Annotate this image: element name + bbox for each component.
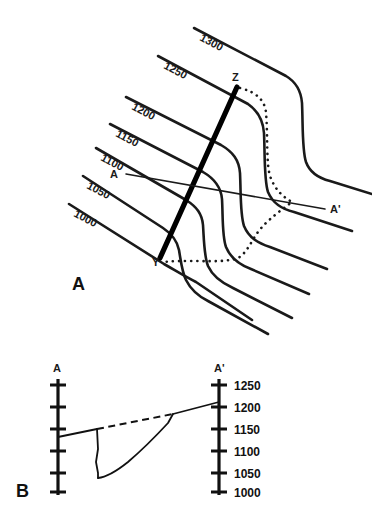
map-label-z: Z	[232, 71, 239, 83]
contour-line-dotted-concealed	[164, 88, 292, 262]
axis-value-1000: 1000	[234, 486, 261, 500]
right-axis-label-a-prime: A'	[214, 362, 225, 374]
map-label-a: A	[110, 168, 118, 180]
panel-b-cross-section: A A' 1250 1200 1150 1100 1050 1000	[16, 362, 261, 501]
contour-label-group: 1000 1050 1100 1150 1200 1250 1300	[72, 31, 225, 229]
panel-label-b: B	[16, 481, 29, 501]
axis-value-1200: 1200	[234, 401, 261, 415]
profile-footwall-rise	[98, 414, 173, 478]
contour-line-1300	[194, 28, 372, 194]
map-label-a-prime: A'	[330, 203, 341, 215]
panel-a-map: 1000 1050 1100 1150 1200 1250 1300 A A' …	[69, 28, 372, 334]
contour-label-1250: 1250	[162, 59, 189, 81]
fault-trace-line	[160, 87, 237, 258]
cross-section-line-a-aprime	[126, 174, 325, 209]
right-axis-values: 1250 1200 1150 1100 1050 1000	[234, 379, 261, 500]
panel-label-a: A	[72, 274, 85, 294]
contour-label-1050: 1050	[85, 179, 112, 201]
contour-line-1250	[158, 56, 352, 231]
left-axis-label-a: A	[53, 362, 61, 374]
axis-value-1250: 1250	[234, 379, 261, 393]
geology-figure: 1000 1050 1100 1150 1200 1250 1300 A A' …	[0, 0, 372, 532]
contour-label-1000: 1000	[72, 207, 99, 229]
contour-label-1200: 1200	[130, 100, 157, 122]
profile-projected-dashed	[97, 414, 173, 429]
map-label-y: Y	[152, 256, 160, 268]
axis-value-1050: 1050	[234, 467, 261, 481]
contour-label-1150: 1150	[114, 127, 141, 149]
figure-root: 1000 1050 1100 1150 1200 1250 1300 A A' …	[0, 0, 372, 532]
contour-label-1300: 1300	[198, 31, 225, 53]
axis-value-1150: 1150	[234, 423, 260, 437]
profile-fault-downthrow	[96, 429, 98, 478]
axis-value-1100: 1100	[234, 445, 260, 459]
